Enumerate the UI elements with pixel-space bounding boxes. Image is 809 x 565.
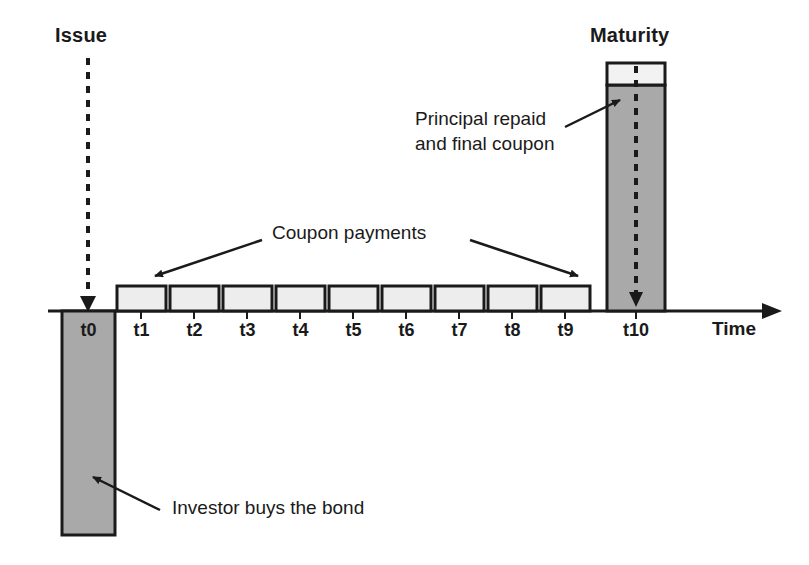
- coupon-bar-t8: [488, 286, 537, 311]
- tick-label-t0: t0: [63, 320, 114, 341]
- tick-label-t7: t7: [434, 320, 485, 341]
- maturity-title: Maturity: [590, 24, 669, 48]
- diagram-canvas: [0, 0, 809, 565]
- coupon-bar-t2: [170, 286, 219, 311]
- tick-label-t2: t2: [169, 320, 220, 341]
- tick-label-t3: t3: [222, 320, 273, 341]
- tick-label-t1: t1: [116, 320, 167, 341]
- axis-arrowhead: [762, 303, 782, 319]
- leader-coupon-right: [470, 240, 578, 276]
- coupon-bar-t6: [382, 286, 431, 311]
- coupon-bar-t5: [329, 286, 378, 311]
- coupon-bars: [117, 286, 590, 311]
- tick-label-t9: t9: [540, 320, 591, 341]
- coupon-bar-t3: [223, 286, 272, 311]
- investor-annotation: Investor buys the bond: [172, 497, 364, 519]
- bond-cashflow-diagram: Issue Maturity Principal repaid and fina…: [0, 0, 809, 565]
- leader-coupon-left: [155, 240, 262, 276]
- principal-annotation-line1: Principal repaid: [415, 108, 546, 130]
- coupon-bar-t4: [276, 286, 325, 311]
- bar-t0-purchase: [62, 311, 115, 535]
- tick-label-t6: t6: [381, 320, 432, 341]
- issue-dashed-arrow: [80, 58, 96, 312]
- coupon-bar-t1: [117, 286, 166, 311]
- principal-annotation-line2: and final coupon: [415, 133, 554, 155]
- tick-label-t4: t4: [275, 320, 326, 341]
- time-axis-label: Time: [712, 318, 756, 340]
- tick-label-t8: t8: [487, 320, 538, 341]
- tick-label-t10: t10: [607, 320, 665, 341]
- issue-title: Issue: [55, 24, 107, 48]
- tick-label-t5: t5: [328, 320, 379, 341]
- coupon-bar-t7: [435, 286, 484, 311]
- coupon-bar-t9: [541, 286, 590, 311]
- coupon-payments-annotation: Coupon payments: [272, 222, 426, 244]
